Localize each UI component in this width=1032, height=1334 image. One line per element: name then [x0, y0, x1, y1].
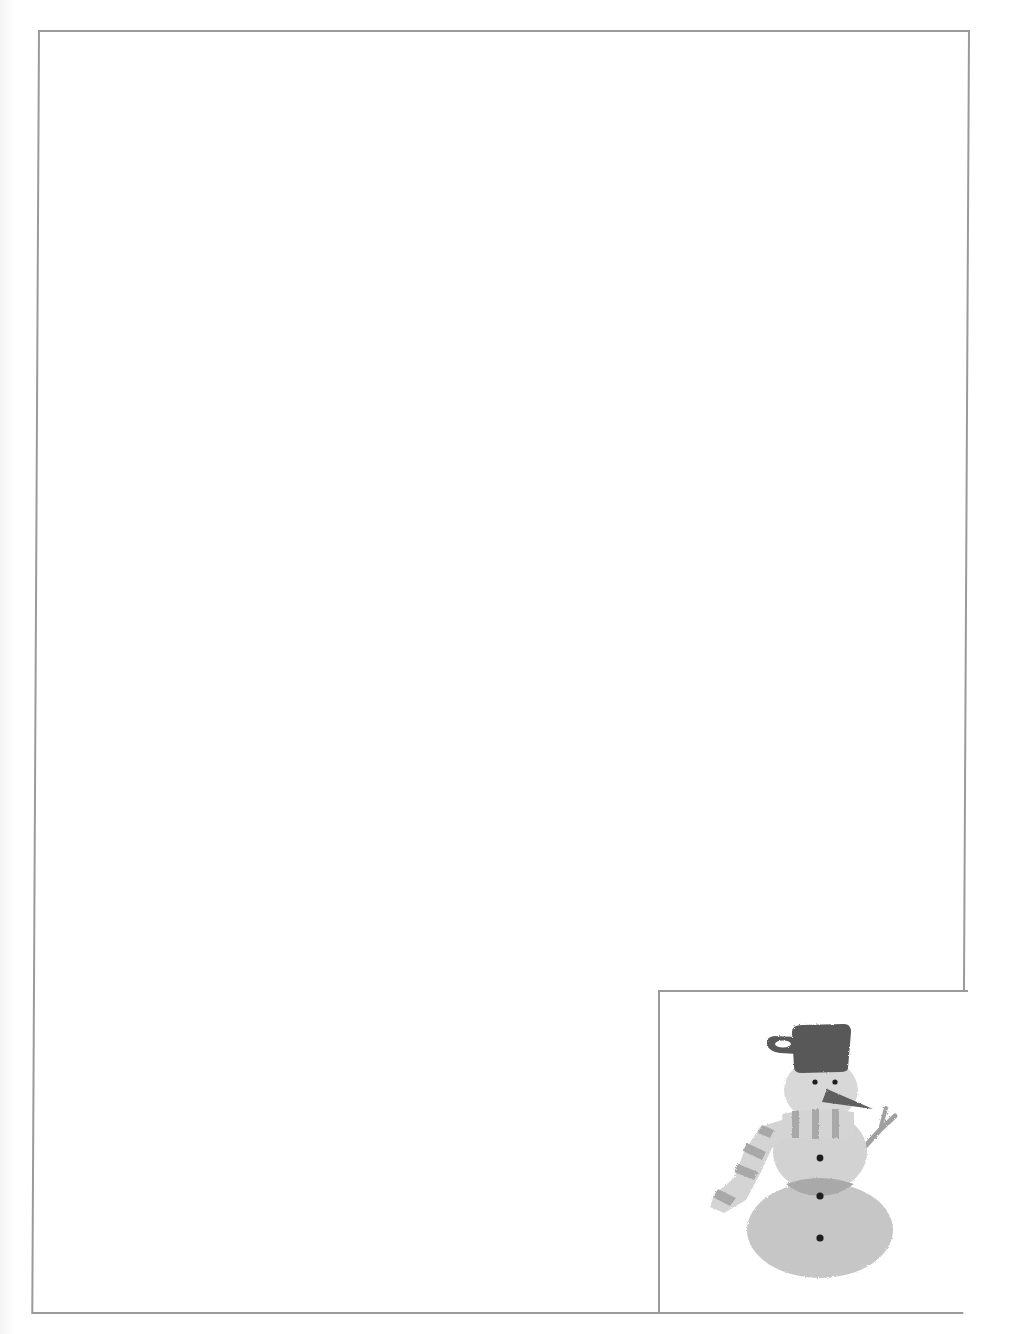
- right-eye: [832, 1079, 837, 1084]
- writing-area-lower-left[interactable]: [40, 32, 656, 1310]
- left-eye: [812, 1079, 817, 1084]
- snowman-illustration-box: Snowman wearing a mug-shaped hat and a s…: [658, 990, 968, 1312]
- button-3: [816, 1234, 823, 1241]
- snowman-icon: [660, 992, 968, 1312]
- mug-hat: [767, 1024, 851, 1073]
- button-2: [816, 1192, 823, 1199]
- page-edge-shadow: [0, 0, 14, 1334]
- button-1: [817, 1155, 824, 1162]
